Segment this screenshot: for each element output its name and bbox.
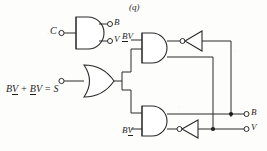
logic-circuit-diagram xyxy=(0,0,267,151)
sum-input-terminal[interactable] xyxy=(59,78,64,83)
output-terminal-b-top[interactable] xyxy=(108,22,113,27)
output-label-v-top: V xyxy=(114,35,120,44)
set-and-gate-body xyxy=(142,33,167,63)
output-terminal-b-right[interactable] xyxy=(244,112,249,117)
bottom-and-input-label: BV xyxy=(122,126,133,135)
output-terminal-v-top[interactable] xyxy=(108,39,113,44)
sum-equation-label: BV + BV = S xyxy=(6,84,59,94)
top-and-label-part-1: V xyxy=(128,31,134,41)
sum-eq-part-2: + xyxy=(18,83,30,94)
clock-input-terminal[interactable] xyxy=(59,30,64,35)
bottom-inverter-body xyxy=(182,120,198,138)
reset-and-gate-body xyxy=(142,106,167,136)
bottom-and-label-part-1: V xyxy=(128,125,134,136)
bottom-and-label-part-0: B xyxy=(122,125,128,135)
figure-caption: (q) xyxy=(129,2,140,12)
wire-or-to-bottom-and xyxy=(122,90,131,113)
output-label-b-top: B xyxy=(114,18,120,27)
output-label-v-right: V xyxy=(251,123,257,132)
top-inverter-body xyxy=(185,31,202,51)
wire-or-to-top-and xyxy=(122,49,131,72)
output-label-b-right: B xyxy=(251,108,257,117)
clock-and-gate-body xyxy=(76,17,104,49)
figure-sheet: (q) C B V B V BV + BV = S BV BV xyxy=(0,0,267,151)
junction-dot-b xyxy=(229,112,233,116)
sum-eq-part-5: = S xyxy=(42,83,59,94)
top-and-input-label: BV xyxy=(122,32,133,41)
clock-input-label: C xyxy=(50,26,57,36)
output-terminal-v-right[interactable] xyxy=(244,127,249,132)
sum-or-gate-body xyxy=(84,65,114,97)
